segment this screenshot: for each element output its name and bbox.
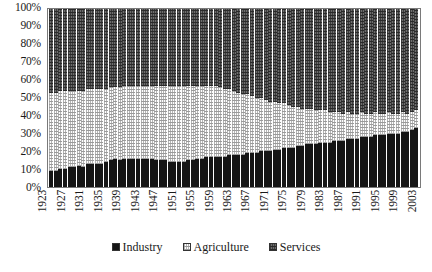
bar-segment-services bbox=[300, 9, 304, 109]
bar-column bbox=[314, 9, 318, 187]
bar-column bbox=[373, 9, 377, 187]
bar-segment-agriculture bbox=[387, 112, 391, 133]
bar-segment-services bbox=[282, 9, 286, 103]
bar-column bbox=[223, 9, 227, 187]
bar-segment-industry bbox=[99, 164, 103, 187]
bar-column bbox=[95, 9, 99, 187]
bar-segment-industry bbox=[204, 157, 208, 187]
bar-segment-industry bbox=[145, 159, 149, 187]
bar-segment-agriculture bbox=[309, 109, 313, 145]
bar-segment-agriculture bbox=[177, 86, 181, 163]
x-axis-tick-label: 1939 bbox=[111, 190, 123, 212]
bar-segment-services bbox=[182, 9, 186, 86]
bar-segment-agriculture bbox=[350, 114, 354, 139]
bar-segment-services bbox=[241, 9, 245, 94]
bar-segment-services bbox=[355, 9, 359, 114]
bar-segment-industry bbox=[378, 135, 382, 187]
bar-column bbox=[287, 9, 291, 187]
bar-segment-industry bbox=[172, 162, 176, 187]
agriculture-swatch bbox=[183, 243, 191, 251]
bar-segment-services bbox=[150, 9, 154, 86]
bar-segment-industry bbox=[127, 159, 131, 187]
bar-segment-services bbox=[373, 9, 377, 112]
bar-segment-industry bbox=[291, 148, 295, 187]
bar-segment-services bbox=[163, 9, 167, 86]
bar-segment-services bbox=[54, 9, 58, 93]
bar-segment-services bbox=[382, 9, 386, 114]
bar-segment-services bbox=[131, 9, 135, 86]
legend-item-agriculture[interactable]: Agriculture bbox=[183, 241, 249, 253]
x-axis-tick-label: 1979 bbox=[296, 190, 308, 212]
bar-segment-services bbox=[305, 9, 309, 109]
bar-segment-industry bbox=[305, 144, 309, 187]
bar-segment-industry bbox=[264, 151, 268, 187]
bar-segment-agriculture bbox=[227, 89, 231, 155]
bar-segment-agriculture bbox=[232, 91, 236, 155]
bar-column bbox=[182, 9, 186, 187]
bar-segment-agriculture bbox=[122, 86, 126, 159]
bar-column bbox=[49, 9, 53, 187]
x-axis-tick-label: 1927 bbox=[56, 190, 68, 212]
bar-segment-services bbox=[227, 9, 231, 89]
bar-segment-agriculture bbox=[396, 114, 400, 134]
bar-column bbox=[236, 9, 240, 187]
bar-segment-industry bbox=[314, 144, 318, 187]
chart-legend: IndustryAgricultureServices bbox=[0, 241, 432, 253]
bar-segment-agriculture bbox=[118, 87, 122, 160]
legend-item-services[interactable]: Services bbox=[269, 241, 321, 253]
bar-segment-services bbox=[323, 9, 327, 110]
bar-column bbox=[109, 9, 113, 187]
x-axis-tick-label: 1983 bbox=[315, 190, 327, 212]
bar-segment-industry bbox=[118, 160, 122, 187]
bar-column bbox=[355, 9, 359, 187]
bar-segment-agriculture bbox=[255, 98, 259, 153]
bar-column bbox=[396, 9, 400, 187]
bar-column bbox=[364, 9, 368, 187]
bar-segment-industry bbox=[300, 146, 304, 187]
bar-segment-agriculture bbox=[259, 98, 263, 151]
bar-segment-services bbox=[109, 9, 113, 87]
bar-segment-industry bbox=[410, 130, 414, 187]
bar-segment-industry bbox=[81, 167, 85, 187]
bar-column bbox=[58, 9, 62, 187]
bar-segment-industry bbox=[104, 162, 108, 187]
bar-segment-services bbox=[291, 9, 295, 107]
bar-segment-industry bbox=[186, 160, 190, 187]
bar-segment-industry bbox=[268, 151, 272, 187]
bar-segment-industry bbox=[296, 146, 300, 187]
x-axis-tick-label: 1975 bbox=[278, 190, 290, 212]
bar-segment-services bbox=[209, 9, 213, 86]
bar-segment-industry bbox=[364, 137, 368, 187]
bar-column bbox=[232, 9, 236, 187]
bar-segment-industry bbox=[350, 139, 354, 187]
bar-column bbox=[154, 9, 158, 187]
legend-item-industry[interactable]: Industry bbox=[112, 241, 163, 253]
bar-segment-services bbox=[77, 9, 81, 91]
bar-segment-services bbox=[200, 9, 204, 86]
bar-segment-agriculture bbox=[373, 112, 377, 135]
bar-segment-agriculture bbox=[214, 86, 218, 157]
bar-segment-agriculture bbox=[163, 86, 167, 161]
x-axis-tick-label: 1963 bbox=[222, 190, 234, 212]
bar-segment-agriculture bbox=[68, 91, 72, 168]
x-axis-tick-label: 1923 bbox=[38, 190, 50, 212]
bar-segment-agriculture bbox=[287, 105, 291, 148]
y-axis-tick-label: 30% bbox=[21, 128, 41, 140]
bar-segment-services bbox=[118, 9, 122, 87]
bar-column bbox=[414, 9, 418, 187]
bar-segment-services bbox=[191, 9, 195, 86]
bar-segment-agriculture bbox=[127, 86, 131, 159]
bar-segment-agriculture bbox=[282, 103, 286, 148]
bar-segment-agriculture bbox=[250, 96, 254, 153]
bar-column bbox=[401, 9, 405, 187]
bar-segment-services bbox=[414, 9, 418, 110]
bar-column bbox=[214, 9, 218, 187]
bar-column bbox=[68, 9, 72, 187]
bar-column bbox=[296, 9, 300, 187]
x-axis-tick-label: 1943 bbox=[130, 190, 142, 212]
bar-column bbox=[241, 9, 245, 187]
y-axis-tick-label: 90% bbox=[21, 20, 41, 32]
bar-segment-industry bbox=[168, 162, 172, 187]
bar-column bbox=[328, 9, 332, 187]
bar-column bbox=[323, 9, 327, 187]
